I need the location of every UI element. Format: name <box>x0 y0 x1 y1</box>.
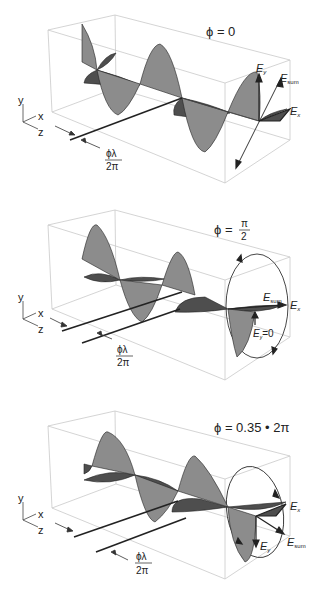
axis-x-label: x <box>38 110 44 122</box>
esum-label: Esum <box>287 536 306 549</box>
axis-x-label: x <box>38 307 44 319</box>
axis-x-label: x <box>38 508 44 520</box>
propagation-axis-2 <box>82 309 180 343</box>
ex-label: Ex <box>290 105 301 118</box>
esum-label: Esum <box>280 72 299 85</box>
shift-denominator: 2π <box>106 161 119 172</box>
panel-phase-pi-half: ϕ = π 2 Esum Ex Ey=0 y x z ϕλ 2π <box>0 197 323 394</box>
axis-z-label: z <box>38 126 44 138</box>
shift-numerator: ϕλ <box>136 551 147 562</box>
bounding-box <box>48 210 290 380</box>
phase-label: ϕ = 0 <box>206 24 235 39</box>
phase-shift-arrows <box>55 523 128 560</box>
panel-phase-0: ϕ = 0 Ey Esum Ex y x z ϕλ 2π <box>0 0 323 197</box>
wave-diagram-circular: ϕ = π 2 Esum Ex Ey=0 y x z ϕλ 2π <box>0 197 323 394</box>
ey-label: Ey <box>260 540 271 553</box>
panel-phase-035: ϕ = 0.35 • 2π Ex Ey Esum y x z ϕλ 2π <box>0 394 323 591</box>
ex-label: Ex <box>290 299 301 312</box>
esum-label: Esum <box>263 291 282 304</box>
propagation-axis-1 <box>62 292 182 331</box>
phase-label: ϕ = 0.35 • 2π <box>214 420 289 435</box>
shift-denominator: 2π <box>136 565 149 576</box>
axis-y-label: y <box>18 291 24 303</box>
wave-diagram-elliptical: ϕ = 0.35 • 2π Ex Ey Esum y x z ϕλ 2π <box>0 394 323 592</box>
axis-triad <box>23 502 38 527</box>
phase-numerator: π <box>241 218 248 229</box>
shift-numerator: ϕλ <box>106 148 117 159</box>
axis-triad <box>23 104 38 129</box>
propagation-axis-1 <box>74 501 178 537</box>
ey-zero-label: Ey=0 <box>253 328 274 340</box>
vertical-wave <box>92 432 256 562</box>
phase-label: ϕ = <box>214 222 232 237</box>
axis-y-label: y <box>18 94 24 106</box>
ey-label: Ey <box>256 62 267 75</box>
shift-numerator: ϕλ <box>117 344 128 355</box>
axis-y-label: y <box>18 492 24 504</box>
axis-z-label: z <box>38 524 44 536</box>
ex-label: Ex <box>290 500 301 513</box>
wave-diagram-linear: ϕ = 0 Ey Esum Ex y x z ϕλ 2π <box>0 0 323 197</box>
phase-denominator: 2 <box>241 231 247 242</box>
shift-denominator: 2π <box>117 357 130 368</box>
vertical-wave <box>82 24 260 152</box>
axis-z-label: z <box>38 323 44 335</box>
propagation-axis-2 <box>96 518 186 552</box>
axis-triad <box>23 301 38 326</box>
